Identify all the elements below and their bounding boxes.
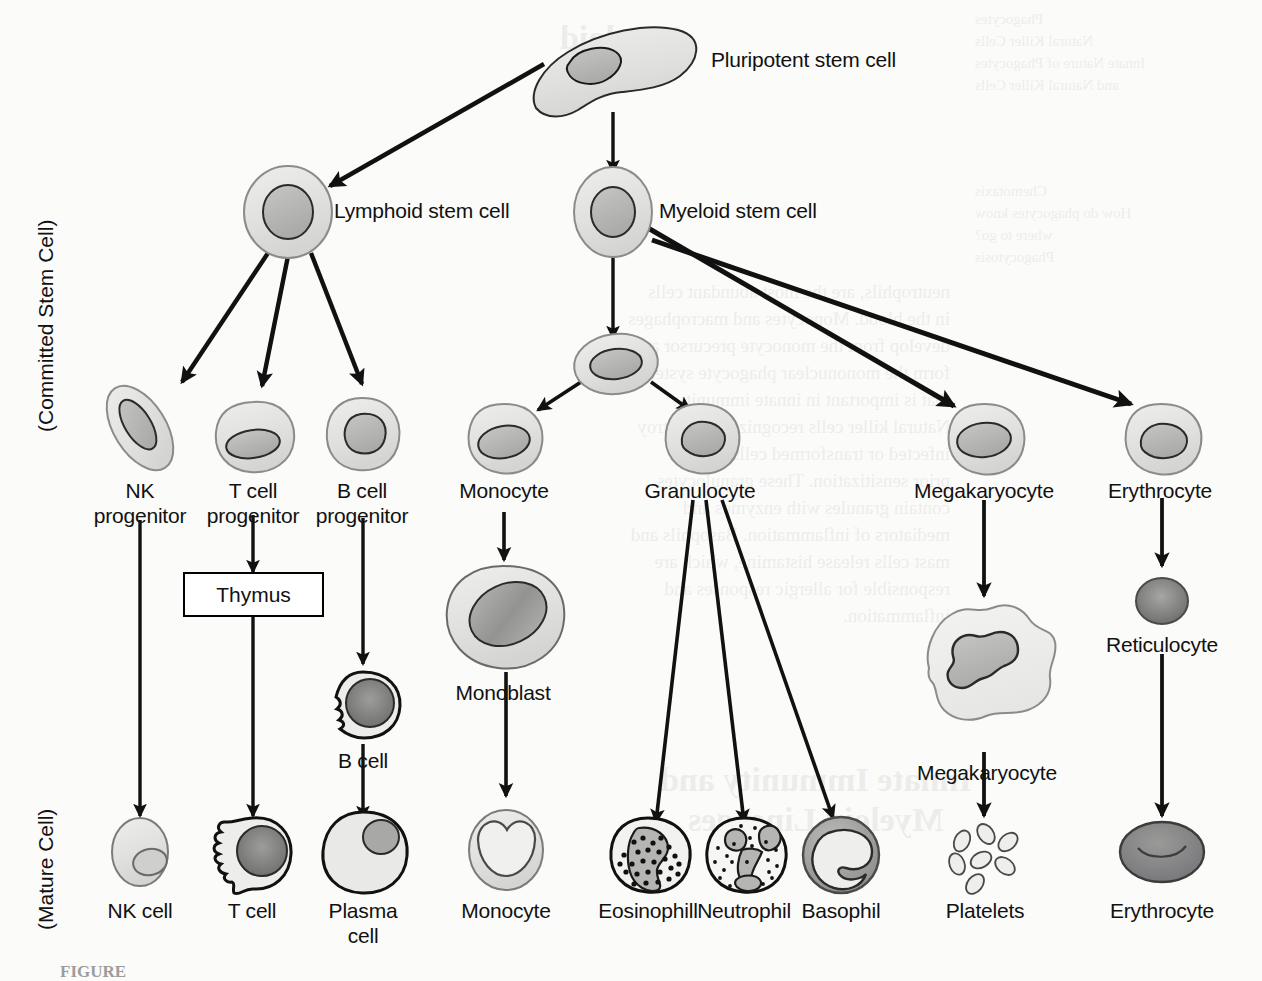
cell-platelets	[946, 821, 1021, 898]
axis-label-committed-stem-cell: (Committed Stem Cell)	[34, 220, 58, 432]
label-basophil: Basophil	[802, 898, 881, 923]
arrow-lymphoid-to-t-progenitor	[262, 256, 288, 386]
label-erythrocyte: Erythrocyte	[1110, 898, 1214, 923]
cell-erythrocyte	[1120, 822, 1204, 882]
label-platelets: Platelets	[946, 898, 1025, 923]
label-neutrophil: Neutrophil	[697, 898, 791, 923]
label-monocyte-precursor: Monocyte	[459, 478, 548, 503]
arrow-lymphoid-to-nk-progenitor	[182, 253, 268, 382]
thymus-box: Thymus	[183, 572, 324, 617]
label-monocyte: Monocyte	[461, 898, 550, 923]
cell-neutrophil	[707, 818, 786, 892]
cell-monoblast	[447, 566, 565, 669]
label-reticulocyte: Reticulocyte	[1106, 632, 1218, 657]
cell-t-cell-progenitor	[216, 402, 294, 472]
cell-pluripotent-stem-cell	[534, 27, 697, 116]
label-eosinophil: Eosinophill	[598, 898, 697, 923]
cell-megakaryocyte-precursor	[949, 404, 1025, 474]
label-granulocyte: Granulocyte	[644, 478, 755, 503]
arrow-myeloid-to-erythrocyte	[652, 240, 1131, 404]
cell-monocyte-precursor	[469, 404, 543, 474]
cell-t-cell	[214, 818, 291, 894]
arrow-pluripotent-to-lymphoid	[330, 64, 544, 186]
cell-nk-cell	[112, 818, 169, 886]
cell-b-cell	[336, 672, 400, 738]
label-nk-cell: NK cell	[107, 898, 172, 923]
label-nk-progenitor: NK progenitor	[94, 478, 187, 528]
label-t-cell: T cell	[228, 898, 277, 923]
figure-canvas: neutrophils, are the most abundant cells…	[0, 0, 1262, 981]
cell-erythrocyte-precursor	[1126, 404, 1202, 474]
arrow-lymphoid-to-b-progenitor	[311, 253, 362, 384]
label-monoblast: Monoblast	[455, 680, 550, 705]
label-erythrocyte-precursor: Erythrocyte	[1108, 478, 1212, 503]
label-lymphoid-stem-cell: Lymphoid stem cell	[334, 198, 509, 223]
label-myeloid-stem-cell: Myeloid stem cell	[659, 198, 817, 223]
cell-lymphoid-stem-cell	[244, 166, 332, 258]
cell-granulocyte-precursor	[666, 404, 740, 474]
label-megakaryocyte-precursor: Megakaryocyte	[914, 478, 1054, 503]
cell-myeloid-progenitor	[571, 329, 662, 399]
cell-monocyte	[469, 810, 543, 890]
cell-myeloid-stem-cell	[574, 167, 652, 257]
label-megakaryocyte: Megakaryocyte	[917, 760, 1057, 785]
cell-plasma-cell	[323, 812, 407, 893]
cell-eosinophil	[611, 818, 690, 892]
figure-caption: FIGURE	[60, 962, 126, 981]
cell-reticulocyte	[1136, 578, 1188, 624]
label-b-cell: B cell	[338, 748, 388, 773]
axis-label-mature-cell: (Mature Cell)	[34, 809, 58, 930]
label-t-cell-progenitor: T cell progenitor	[207, 478, 300, 528]
hematopoiesis-lineage-graph	[0, 0, 1262, 981]
cell-basophil	[803, 817, 879, 893]
label-plasma-cell: Plasma cell	[329, 898, 398, 948]
cell-b-cell-progenitor	[327, 398, 400, 470]
arrow-progenitor-to-monocyte	[538, 382, 581, 410]
thymus-label: Thymus	[216, 583, 291, 607]
cell-nk-progenitor	[93, 374, 187, 481]
label-pluripotent-stem-cell: Pluripotent stem cell	[711, 47, 896, 72]
label-b-cell-progenitor: B cell progenitor	[316, 478, 409, 528]
cell-megakaryocyte	[928, 605, 1056, 720]
arrow-granulocyte-to-eosinophil	[656, 500, 693, 822]
